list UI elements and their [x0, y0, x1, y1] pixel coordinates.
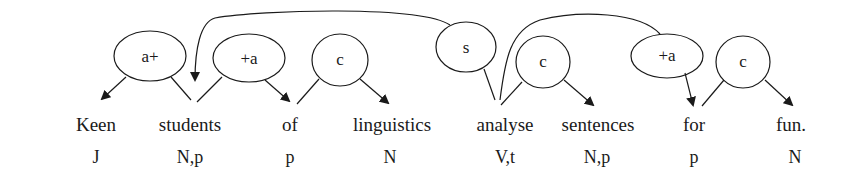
relation-arrow: [360, 79, 388, 103]
word: linguistics: [353, 114, 431, 135]
relation-arrow: [102, 77, 126, 99]
relation-label: c: [539, 52, 547, 71]
pos-tag: N,p: [584, 147, 611, 167]
pos-tag: N: [384, 147, 397, 167]
relation-line: [484, 69, 495, 100]
relation-label: +a: [240, 49, 258, 68]
word: for: [683, 114, 706, 135]
relation-label: c: [336, 50, 344, 69]
relation-label: +a: [658, 46, 676, 65]
pos-tag: N: [789, 147, 802, 167]
relation-arrow: [685, 73, 693, 105]
word: fun.: [776, 114, 806, 135]
relation-line: [171, 77, 191, 100]
pos-tag: N,p: [177, 147, 204, 167]
relation-label: a+: [141, 47, 158, 66]
word: students: [159, 114, 221, 135]
word: of: [282, 114, 299, 135]
relation-label: c: [739, 52, 747, 71]
relation-arrow: [765, 80, 792, 105]
pos-tag: p: [286, 147, 295, 167]
word: analyse: [477, 114, 534, 135]
dependency-diagram: a+ +a c s c +a c Keen students of lingui…: [0, 0, 841, 182]
relation-line: [197, 77, 222, 102]
pos-tag: J: [92, 147, 99, 167]
word: Keen: [76, 114, 117, 135]
relation-arrow: [564, 80, 593, 105]
relation-curve: [500, 14, 660, 100]
relation-line: [702, 80, 724, 106]
relation-label: s: [463, 38, 470, 57]
relation-arrow: [265, 80, 289, 101]
pos-tag: p: [690, 147, 699, 167]
word: sentences: [562, 114, 635, 135]
relation-line: [297, 79, 319, 104]
relation-line: [501, 82, 522, 105]
relation-arrow-curve: [195, 11, 450, 80]
pos-tag: V,t: [495, 147, 515, 167]
